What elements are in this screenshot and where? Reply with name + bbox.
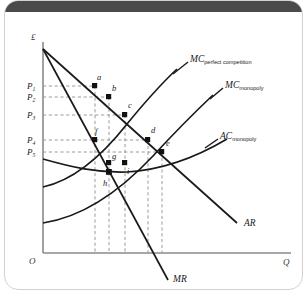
ar-curve	[43, 49, 237, 223]
point-d-marker	[145, 137, 150, 142]
point-a-marker	[92, 83, 97, 88]
point-d-label: d	[151, 125, 156, 135]
ac-monopoly-curve	[43, 139, 227, 172]
price-tick-p1: P1	[26, 81, 36, 92]
point-i-marker	[122, 160, 127, 165]
economics-diagram: £ O Q P1 P2 P3 P4 P5 MCperfect compet	[5, 12, 303, 290]
mc-monopoly-leader-line	[210, 88, 223, 99]
diagram-svg: £ O Q P1 P2 P3 P4 P5 MCperfect compet	[5, 12, 303, 290]
point-g-marker	[106, 160, 111, 165]
point-f-marker	[92, 137, 97, 142]
ar-label: AR	[243, 218, 256, 228]
mc-perfect-competition-label: MCperfect competition	[189, 54, 252, 65]
point-h-label: h	[103, 178, 107, 188]
origin-label: O	[29, 256, 36, 266]
ac-monopoly-label: ACmonopoly	[219, 131, 257, 142]
price-tick-p5: P5	[26, 147, 36, 158]
figure-card: £ O Q P1 P2 P3 P4 P5 MCperfect compet	[4, 0, 303, 290]
point-e-label: e	[166, 138, 170, 148]
mr-label: MR	[172, 274, 187, 284]
x-axis-label: Q	[283, 257, 290, 267]
price-tick-p3: P3	[26, 110, 36, 121]
point-b-label: b	[112, 83, 116, 93]
point-a-label: a	[97, 72, 101, 82]
header-bar	[5, 1, 303, 12]
price-tick-p2: P2	[26, 92, 36, 103]
point-c-marker	[122, 112, 127, 117]
point-b-marker	[106, 94, 111, 99]
point-c-label: c	[128, 100, 132, 110]
point-h-marker	[106, 169, 112, 175]
price-tick-p4: P4	[26, 135, 36, 146]
point-f-label: f	[95, 126, 99, 136]
mc-monopoly-label: MCmonopoly	[224, 80, 264, 91]
y-axis-label: £	[31, 32, 36, 42]
mc-pc-leader-line	[173, 62, 188, 74]
point-e-marker	[159, 149, 164, 154]
point-g-label: g	[112, 151, 116, 161]
